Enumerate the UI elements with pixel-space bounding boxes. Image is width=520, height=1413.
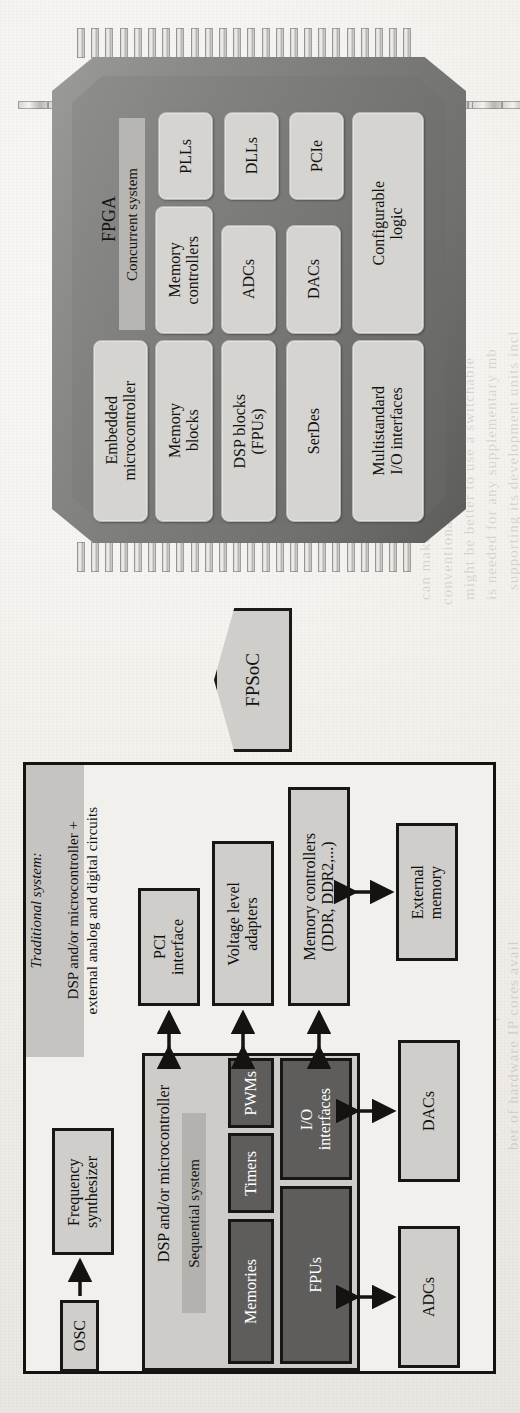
trad-block-adcs[interactable]: ADCs [398,1226,460,1368]
trad-core-io-interfaces[interactable]: I/O interfaces [280,1058,352,1180]
trad-core-timers[interactable]: Timers [228,1133,274,1213]
chip-pins-top [74,28,415,58]
concurrent-system-band: Concurrent system [119,118,145,330]
chip-pins-right [472,98,520,112]
trad-block-label: Memory controllers (DDR, DDR2,...) [301,833,337,961]
fpga-block-label: Embedded microcontroller [103,381,139,481]
fpga-block-dlls[interactable]: DLLs [224,112,279,200]
trad-core-title: DSP and/or microcontroller [155,1085,173,1262]
fpga-block-label: DLLs [243,137,261,174]
fpga-block-label: Configurable logic [370,181,406,265]
fpga-block-memory-controllers[interactable]: Memory controllers [155,206,213,334]
trad-core-memories[interactable]: Memories [228,1219,274,1364]
trad-core-label: PWMs [242,1071,260,1115]
fpga-title: FPGA [99,196,120,242]
fpga-chip: FPGA Concurrent system Embedded microcon… [0,0,520,560]
trad-block-external-memory[interactable]: External memory [396,823,458,961]
trad-block-label: Frequency synthesizer [65,1156,101,1228]
fpga-block-label: SerDes [305,408,323,454]
trad-block-label: ADCs [420,1277,438,1317]
trad-block-osc[interactable]: OSC [60,1300,99,1372]
fpga-block-plls[interactable]: PLLs [158,112,213,200]
fpga-block-label: PLLs [177,139,195,174]
fpga-block-dsp-blocks[interactable]: DSP blocks (FPUs) [221,340,276,522]
fpga-block-adcs[interactable]: ADCs [221,225,276,334]
traditional-caption-text: Traditional system: DSP and/or microcont… [8,807,102,1014]
fpga-block-label: Multistandard I/O interfaces [370,386,406,476]
trad-block-label: DACs [420,1091,438,1131]
trad-block-pci-interface[interactable]: PCI interface [138,888,200,1006]
fpga-block-label: PCIe [308,140,326,172]
fpga-block-configurable-logic[interactable]: Configurable logic [352,112,424,334]
fpga-block-label: Memory controllers [166,236,202,304]
trad-block-label: OSC [71,1320,89,1351]
traditional-system-caption: Traditional system: DSP and/or microcont… [26,765,84,1057]
fpga-block-dacs[interactable]: DACs [286,225,341,334]
fpga-block-pcie[interactable]: PCIe [289,112,344,200]
chip-pins-bottom [74,542,415,572]
traditional-caption-rest: DSP and/or microcontroller + external an… [65,807,100,1014]
concurrent-system-label: Concurrent system [124,168,141,281]
trad-block-voltage-adapters[interactable]: Voltage level adapters [212,841,274,1006]
fpga-block-label: ADCs [240,259,258,299]
trad-block-frequency-synthesizer[interactable]: Frequency synthesizer [52,1128,114,1255]
traditional-caption-italic: Traditional system: [28,853,44,969]
trad-block-label: PCI interface [151,919,187,975]
trad-block-label: Voltage level adapters [225,882,261,966]
fpga-block-serdes[interactable]: SerDes [286,340,341,522]
fpsoc-label: FPSoC [242,653,263,707]
fpga-block-multistandard-io[interactable]: Multistandard I/O interfaces [352,340,424,522]
trad-core-fpus[interactable]: FPUs [280,1186,352,1364]
trad-core-label: FPUs [307,1257,325,1293]
trad-core-label: I/O interfaces [298,1088,334,1150]
trad-core-label: Timers [242,1151,260,1196]
fpga-block-label: Memory blocks [166,403,202,458]
trad-block-dacs[interactable]: DACs [398,1040,460,1182]
fpga-block-memory-blocks[interactable]: Memory blocks [155,340,213,522]
fpga-block-embedded-microcontroller[interactable]: Embedded microcontroller [93,340,148,522]
fpga-block-label: DACs [305,259,323,299]
sequential-system-label: Sequential system [186,1159,203,1268]
fpga-block-label: DSP blocks (FPUs) [231,394,267,469]
trad-core-label: Memories [242,1259,260,1324]
trad-block-memory-controllers[interactable]: Memory controllers (DDR, DDR2,...) [288,787,350,1006]
trad-core-pwms[interactable]: PWMs [228,1058,274,1128]
sequential-system-band: Sequential system [182,1113,206,1313]
trad-block-label: External memory [409,865,445,919]
